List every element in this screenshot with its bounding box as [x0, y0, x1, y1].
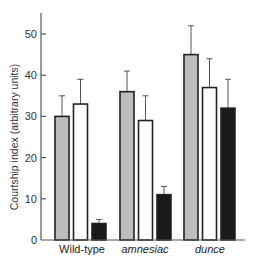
bar-group-wild-type [55, 79, 106, 240]
bar-white [139, 121, 153, 240]
bar-group-amnesiac [120, 71, 171, 240]
y-tick-label: 50 [25, 28, 37, 40]
y-tick-label: 10 [25, 193, 37, 205]
bar-gray [55, 116, 69, 240]
x-category-label: Wild-type [59, 243, 105, 255]
y-tick-label: 40 [25, 69, 37, 81]
y-tick-label: 30 [25, 110, 37, 122]
y-axis: 01020304050 [25, 13, 46, 246]
y-tick-label: 20 [25, 152, 37, 164]
x-axis: Wild-typeamnesiacdunce [41, 240, 245, 255]
y-tick-label: 0 [31, 234, 37, 246]
bar-chart: 01020304050 Wild-typeamnesiacdunce Court… [0, 0, 266, 267]
bar-white [203, 88, 217, 240]
bar-black [221, 108, 235, 240]
bars [55, 26, 235, 240]
bar-black [92, 224, 106, 240]
x-category-label: dunce [195, 243, 225, 255]
bar-white [74, 104, 88, 240]
x-category-label: amnesiac [121, 243, 169, 255]
bar-gray [120, 92, 134, 240]
bar-group-dunce [184, 26, 235, 240]
y-axis-title: Courtship index (arbitrary units) [8, 64, 20, 210]
bar-gray [184, 55, 198, 240]
bar-black [157, 195, 171, 240]
